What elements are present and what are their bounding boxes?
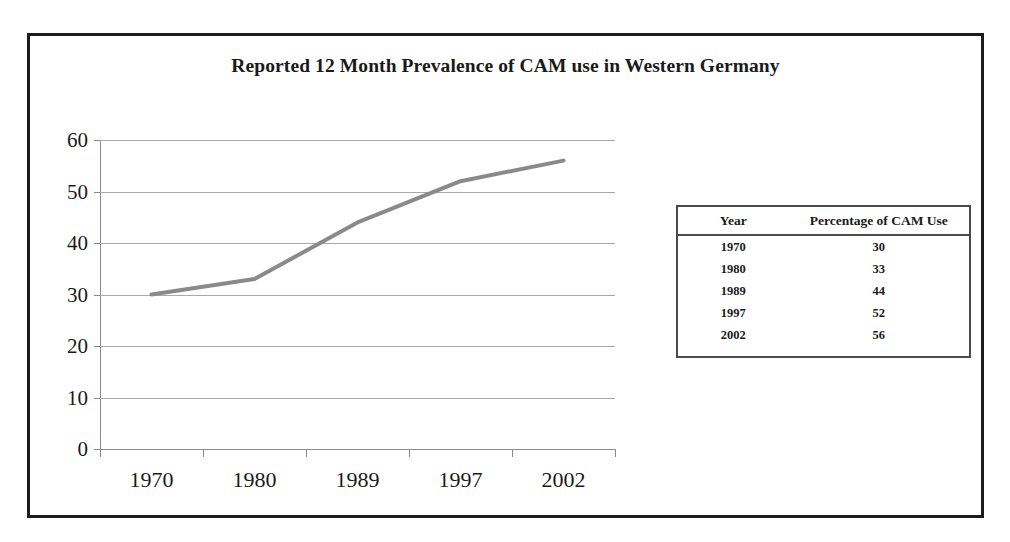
cell-percentage: 44 — [789, 280, 969, 302]
plot-area: 6050403020100 19701980198919972002 — [100, 140, 615, 449]
y-axis-tick-label: 0 — [78, 437, 89, 462]
table-row: 197030 — [678, 235, 969, 258]
x-tick — [306, 449, 307, 457]
y-axis-tick-label: 30 — [67, 282, 88, 307]
cell-percentage: 56 — [789, 324, 969, 346]
page-title: Reported 12 Month Prevalence of CAM use … — [30, 55, 981, 77]
chart-frame: Reported 12 Month Prevalence of CAM use … — [27, 33, 984, 518]
x-tick — [203, 449, 204, 457]
table-row: 198944 — [678, 280, 969, 302]
series-line-cam-use — [152, 161, 564, 295]
table-row: 198033 — [678, 258, 969, 280]
y-axis-tick-label: 60 — [67, 128, 88, 153]
x-axis-tick-label: 1970 — [130, 467, 174, 493]
x-axis-tick-label: 1980 — [233, 467, 277, 493]
cell-percentage: 30 — [789, 235, 969, 258]
cell-year: 1989 — [678, 280, 789, 302]
y-axis-tick-label: 10 — [67, 385, 88, 410]
x-tick — [409, 449, 410, 457]
data-table-panel: Year Percentage of CAM Use 1970301980331… — [676, 205, 971, 358]
x-tick — [100, 449, 101, 457]
table-header-row: Year Percentage of CAM Use — [678, 207, 969, 235]
data-table: Year Percentage of CAM Use 1970301980331… — [678, 207, 969, 346]
column-header-percentage: Percentage of CAM Use — [789, 207, 969, 235]
cell-percentage: 33 — [789, 258, 969, 280]
table-body: 197030198033198944199752200256 — [678, 235, 969, 346]
column-header-year: Year — [678, 207, 789, 235]
cell-year: 1980 — [678, 258, 789, 280]
cell-year: 1997 — [678, 302, 789, 324]
cell-percentage: 52 — [789, 302, 969, 324]
x-tick — [512, 449, 513, 457]
x-tick — [615, 449, 616, 457]
x-axis-tick-label: 1989 — [336, 467, 380, 493]
cell-year: 1970 — [678, 235, 789, 258]
gridline-0 — [100, 449, 615, 450]
table-row: 200256 — [678, 324, 969, 346]
y-axis-tick-label: 40 — [67, 231, 88, 256]
x-axis-tick-label: 1997 — [439, 467, 483, 493]
y-axis-tick-label: 20 — [67, 334, 88, 359]
x-axis-tick-label: 2002 — [542, 467, 586, 493]
line-series — [100, 140, 615, 449]
table-row: 199752 — [678, 302, 969, 324]
y-axis-tick-label: 50 — [67, 179, 88, 204]
cell-year: 2002 — [678, 324, 789, 346]
